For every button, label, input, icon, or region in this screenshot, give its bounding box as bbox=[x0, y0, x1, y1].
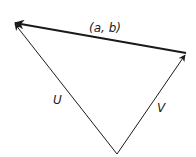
vector-ab-label: (a, b) bbox=[89, 21, 121, 35]
vector-u-arrow bbox=[15, 24, 117, 154]
vector-v-arrow bbox=[117, 55, 185, 154]
vector-u-label: U bbox=[53, 93, 62, 107]
vector-v-label: V bbox=[157, 101, 166, 115]
vector-diagram: (a, b) U V bbox=[0, 0, 196, 157]
